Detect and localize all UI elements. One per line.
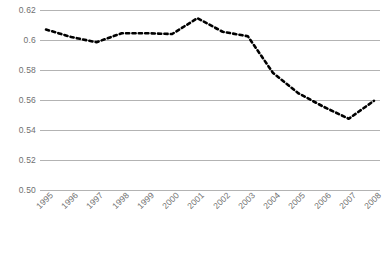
x-tick-label: 2004 bbox=[252, 190, 282, 220]
y-axis: 0.620.60.580.560.540.520.50 bbox=[0, 0, 40, 263]
x-tick-label: 2007 bbox=[328, 190, 358, 220]
x-tick-label: 2000 bbox=[152, 190, 182, 220]
x-tick-label: 2002 bbox=[202, 190, 232, 220]
x-tick-label: 2001 bbox=[177, 190, 207, 220]
line-chart: 0.620.60.580.560.540.520.50 199519961997… bbox=[0, 0, 387, 263]
x-axis: 1995199619971998199920002001200220032004… bbox=[40, 190, 380, 263]
x-tick-label: 1999 bbox=[126, 190, 156, 220]
y-tick-label: 0.54 bbox=[0, 125, 36, 135]
y-tick-label: 0.58 bbox=[0, 65, 36, 75]
x-tick-label: 2008 bbox=[353, 190, 383, 220]
x-tick-label: 2005 bbox=[278, 190, 308, 220]
y-tick-label: 0.52 bbox=[0, 155, 36, 165]
x-tick-label: 1997 bbox=[76, 190, 106, 220]
plot-area bbox=[40, 10, 380, 190]
x-tick-label: 1998 bbox=[101, 190, 131, 220]
data-series-group bbox=[46, 18, 374, 119]
x-tick-label: 1996 bbox=[51, 190, 81, 220]
x-tick-label: 2003 bbox=[227, 190, 257, 220]
y-tick-label: 0.62 bbox=[0, 5, 36, 15]
y-tick-label: 0.56 bbox=[0, 95, 36, 105]
x-tick-label: 2006 bbox=[303, 190, 333, 220]
gridlines bbox=[40, 10, 380, 190]
plot-svg bbox=[40, 10, 380, 190]
y-tick-label: 0.6 bbox=[0, 35, 36, 45]
y-tick-label: 0.50 bbox=[0, 185, 36, 195]
data-line bbox=[46, 18, 374, 119]
